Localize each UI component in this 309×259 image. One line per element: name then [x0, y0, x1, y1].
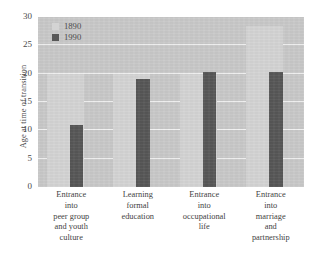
- legend: 1890 1990: [52, 21, 81, 43]
- x-category-line: marriage: [239, 212, 304, 223]
- bar-1990: [70, 125, 83, 187]
- x-category-label-2: Learningformaleducation: [105, 190, 172, 259]
- plot-area: 1890 1990: [38, 17, 304, 187]
- x-category-line: Entrance: [239, 190, 304, 201]
- bar-chart-figure: Age at time of transition 302520151050 1…: [0, 0, 309, 259]
- x-category-line: Entrance: [172, 190, 237, 201]
- legend-swatch-1990: [52, 34, 59, 41]
- legend-swatch-1890: [52, 23, 59, 30]
- bar-1990: [203, 72, 216, 187]
- x-category-label-3: Entranceintooccupationallife: [171, 190, 238, 259]
- x-category-line: partnership: [239, 233, 304, 244]
- x-category-label-4: Entranceintomarriageandpartnership: [238, 190, 305, 259]
- y-tick-10: 10: [10, 125, 32, 134]
- bar-1990: [269, 72, 282, 187]
- legend-label-1890: 1890: [64, 21, 81, 33]
- legend-item-1990: 1990: [52, 32, 81, 43]
- bar-1990: [136, 79, 149, 187]
- x-category-line: life: [172, 222, 237, 233]
- x-category-line: occupational: [172, 212, 237, 223]
- legend-label-1990: 1990: [64, 32, 81, 44]
- x-category-line: Learning: [106, 190, 171, 201]
- y-tick-5: 5: [10, 154, 32, 163]
- y-tick-0: 0: [10, 182, 32, 191]
- x-category-line: into: [39, 201, 104, 212]
- x-category-line: peer group: [39, 212, 104, 223]
- y-tick-25: 25: [10, 40, 32, 49]
- y-tick-15: 15: [10, 97, 32, 106]
- x-category-line: education: [106, 212, 171, 223]
- x-category-line: Entrance: [39, 190, 104, 201]
- x-category-line: culture: [39, 233, 104, 244]
- x-category-line: into: [239, 201, 304, 212]
- x-category-line: and youth: [39, 222, 104, 233]
- x-category-line: into: [172, 201, 237, 212]
- bar-group: [238, 17, 305, 187]
- x-category-label-1: Entranceintopeer groupand youthculture: [38, 190, 105, 259]
- bar-group: [171, 17, 238, 187]
- y-axis-tick-labels: 302520151050: [8, 0, 32, 259]
- x-category-line: formal: [106, 201, 171, 212]
- x-category-line: and: [239, 222, 304, 233]
- legend-item-1890: 1890: [52, 21, 81, 32]
- y-tick-30: 30: [10, 12, 32, 21]
- y-tick-20: 20: [10, 69, 32, 78]
- x-axis-category-labels: Entranceintopeer groupand youthcultureLe…: [38, 190, 304, 259]
- bar-group: [105, 17, 172, 187]
